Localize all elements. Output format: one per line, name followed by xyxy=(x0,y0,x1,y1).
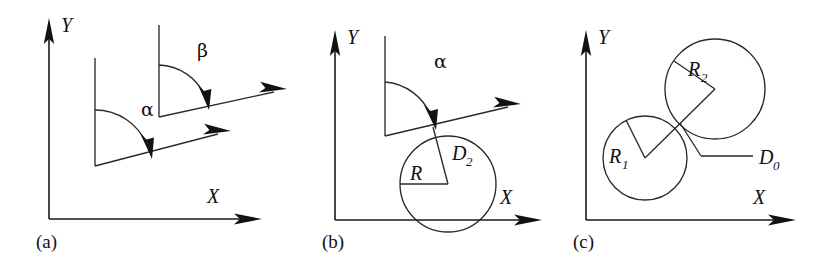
figure-container: Y X α β (a) xyxy=(0,0,828,269)
panel-c-radius-2-subscript: 2 xyxy=(701,70,708,85)
panel-c-caption: (c) xyxy=(573,231,594,253)
panel-b-caption: (b) xyxy=(322,231,344,253)
panel-a-y-axis-label: Y xyxy=(61,14,74,36)
panel-b-alpha-label: α xyxy=(434,50,447,72)
panel-a-x-axis-label: X xyxy=(206,185,220,207)
panel-b-d2-subscript: 2 xyxy=(466,154,473,169)
panel-c-radius-2-label: R xyxy=(687,58,700,80)
panel-a-beta-label: β xyxy=(197,39,208,61)
panel-c-radius-1-subscript: 1 xyxy=(622,157,629,172)
panel-b-d2-label: D xyxy=(451,142,467,164)
panel-c-radius-1-label: R xyxy=(608,145,621,167)
panel-b-y-axis-label: Y xyxy=(347,26,360,48)
panel-a-alpha-label: α xyxy=(141,98,154,120)
schematic-diagram: Y X α β (a) xyxy=(0,0,828,269)
panel-c-d0-subscript: 0 xyxy=(773,158,780,173)
panel-b-radius-label: R xyxy=(409,162,422,184)
panel-a-caption: (a) xyxy=(36,231,57,253)
panel-c-x-axis-label: X xyxy=(752,186,766,208)
panel-c-y-axis-label: Y xyxy=(598,26,611,48)
panel-c-d0-label: D xyxy=(758,146,774,168)
panel-b-x-axis-label: X xyxy=(499,186,513,208)
